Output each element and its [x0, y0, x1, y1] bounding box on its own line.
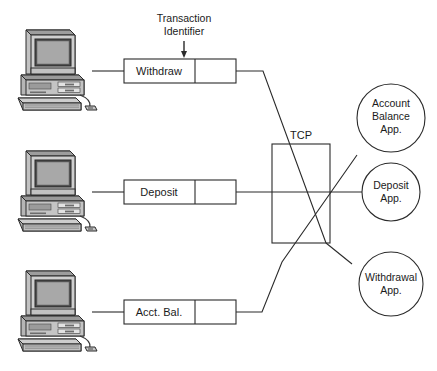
app-label-deposit-line2: App. [380, 192, 402, 204]
app-label-account-balance-line2: Balance [372, 110, 410, 122]
app-label-deposit-line1: Deposit [373, 179, 409, 191]
app-label-withdrawal-line1: Withdrawal [365, 271, 417, 283]
client-computer-deposit [18, 151, 97, 231]
link-withdraw-to-tcp [236, 71, 326, 243]
transaction-identifier-annotation: Transaction Identifier [157, 12, 212, 58]
app-circle-account-balance: Account Balance App. [357, 84, 425, 152]
message-label-acct-bal: Acct. Bal. [136, 306, 182, 318]
link-tcp-to-withdrawal-app [326, 243, 352, 264]
app-label-withdrawal-line2: App. [380, 284, 402, 296]
diagram-canvas: TCP Withdraw Deposit Acct. Bal. [0, 0, 437, 371]
app-label-account-balance-line1: Account [372, 97, 410, 109]
message-box-deposit: Deposit [124, 180, 236, 204]
client-computer-withdraw [18, 30, 97, 110]
down-arrow-icon [181, 41, 187, 58]
app-circle-deposit: Deposit App. [362, 163, 420, 221]
message-label-withdraw: Withdraw [136, 65, 182, 77]
link-acctbal-to-tcp [236, 155, 357, 312]
tcp-network-box: TCP [272, 129, 330, 243]
message-box-withdraw: Withdraw [124, 59, 236, 83]
message-label-deposit: Deposit [140, 186, 177, 198]
app-label-account-balance-line3: App. [380, 123, 402, 135]
annotation-line1: Transaction [157, 12, 212, 24]
client-computer-acct-bal [18, 271, 97, 351]
network-diagram: TCP Withdraw Deposit Acct. Bal. [0, 0, 437, 371]
tcp-label: TCP [290, 129, 312, 141]
message-box-acct-bal: Acct. Bal. [124, 300, 236, 324]
annotation-line2: Identifier [164, 25, 205, 37]
app-circle-withdrawal: Withdrawal App. [359, 252, 423, 316]
